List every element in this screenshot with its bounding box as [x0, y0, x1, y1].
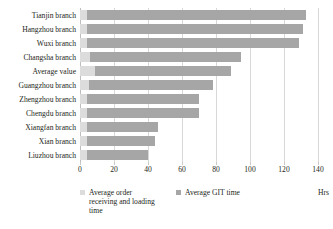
bar-track [80, 108, 318, 118]
legend-label: Average GIT time [185, 188, 240, 197]
bar-segment[interactable] [80, 108, 87, 118]
bar-row [80, 136, 318, 146]
bar-segment[interactable] [80, 150, 87, 160]
legend-swatch-icon [176, 190, 181, 195]
bar-segment[interactable] [87, 150, 148, 160]
bar-segment[interactable] [80, 24, 87, 34]
bar-segment[interactable] [80, 122, 87, 132]
bar-segment[interactable] [80, 66, 95, 76]
chart-legend: Average order receiving and loading time… [80, 188, 333, 226]
bar-row [80, 10, 318, 20]
x-tick-label: 100 [244, 165, 255, 174]
category-label: Hangzhou branch [0, 25, 76, 34]
bar-segment[interactable] [80, 38, 87, 48]
category-label: Average value [0, 67, 76, 76]
x-tick-label: 20 [110, 165, 118, 174]
category-label: Guangzhou branch [0, 81, 76, 90]
bar-segment[interactable] [80, 52, 90, 62]
category-axis-labels: Tianjin branchHangzhou branchWuxi branch… [0, 8, 76, 162]
bar-track [80, 136, 318, 146]
bar-track [80, 38, 318, 48]
legend-label: Average order receiving and loading time [89, 188, 158, 216]
plot-area [80, 8, 318, 162]
x-tick-label: 0 [78, 165, 82, 174]
legend-item-average-git-time[interactable]: Average GIT time [176, 188, 286, 197]
bar-row [80, 122, 318, 132]
x-tick-label: 140 [312, 165, 323, 174]
bar-track [80, 52, 318, 62]
bar-row [80, 80, 318, 90]
bar-track [80, 80, 318, 90]
category-label: Changsha branch [0, 53, 76, 62]
legend-item-average-order-receiving-and-loading-time[interactable]: Average order receiving and loading time [80, 188, 158, 216]
bar-segment[interactable] [95, 66, 231, 76]
bar-track [80, 66, 318, 76]
bar-segment[interactable] [80, 136, 87, 146]
bar-segment[interactable] [87, 136, 155, 146]
category-label: Xian branch [0, 137, 76, 146]
bar-segment[interactable] [80, 10, 87, 20]
bar-segment[interactable] [80, 80, 89, 90]
bar-track [80, 24, 318, 34]
bar-row [80, 38, 318, 48]
bar-row [80, 108, 318, 118]
bar-segment[interactable] [89, 80, 213, 90]
bar-rows [80, 8, 318, 162]
category-label: Tianjin branch [0, 11, 76, 20]
x-axis-unit-label: Hrs [318, 188, 329, 197]
x-tick-label: 80 [212, 165, 220, 174]
category-label: Zhengzhou branch [0, 95, 76, 104]
category-label: Chengdu branch [0, 109, 76, 118]
bar-row [80, 52, 318, 62]
bar-segment[interactable] [87, 38, 300, 48]
legend-swatch-icon [80, 190, 85, 195]
horizontal-bar-chart: Tianjin branchHangzhou branchWuxi branch… [0, 0, 333, 229]
bar-segment[interactable] [87, 24, 303, 34]
bar-row [80, 150, 318, 160]
bar-segment[interactable] [87, 94, 199, 104]
category-label: Xiangfan branch [0, 123, 76, 132]
x-tick-label: 120 [278, 165, 289, 174]
category-label: Liuzhou branch [0, 151, 76, 160]
bar-segment[interactable] [87, 108, 199, 118]
x-axis: 020406080100120140 [80, 162, 318, 176]
bar-segment[interactable] [87, 10, 306, 20]
bar-row [80, 94, 318, 104]
x-tick-label: 40 [144, 165, 152, 174]
bar-track [80, 10, 318, 20]
bar-track [80, 94, 318, 104]
bar-track [80, 150, 318, 160]
bar-row [80, 66, 318, 76]
bar-segment[interactable] [87, 122, 158, 132]
bar-segment[interactable] [80, 94, 87, 104]
x-tick-label: 60 [178, 165, 186, 174]
bar-track [80, 122, 318, 132]
gridline-140 [318, 8, 319, 162]
category-label: Wuxi branch [0, 39, 76, 48]
bar-segment[interactable] [90, 52, 241, 62]
bar-row [80, 24, 318, 34]
